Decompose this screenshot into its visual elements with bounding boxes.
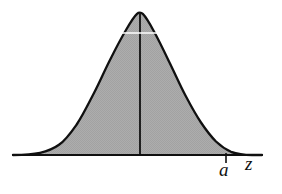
distribution-shaded-area [13, 13, 262, 155]
bell-curve-chart [0, 0, 282, 194]
axis-variable-label: z [245, 154, 252, 173]
normal-distribution-figure: a z [0, 0, 282, 194]
critical-value-label: a [219, 160, 229, 179]
